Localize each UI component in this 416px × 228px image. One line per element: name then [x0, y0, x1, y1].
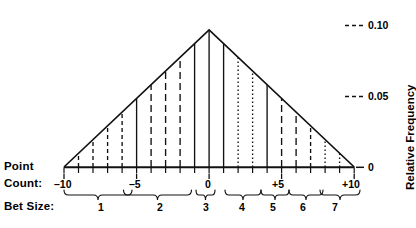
y-tick-label-005: 0.05: [368, 90, 388, 102]
x-tick-label-plus5: +5: [272, 178, 284, 190]
x-axis-title-line1: Point: [4, 160, 34, 172]
y-axis-title: Relative Frequency: [404, 85, 416, 190]
x-tick-label-plus10: +10: [342, 178, 360, 190]
brace-zone-1: [64, 190, 132, 200]
bet-size-title: Bet Size:: [4, 200, 54, 212]
bet-zone-label-6: 6: [300, 201, 306, 213]
bet-zone-label-7: 7: [332, 201, 338, 213]
x-axis-title-line2: Count:: [4, 177, 42, 189]
brace-zone-3: [196, 190, 215, 200]
chart-canvas: 0.10 0.05 0 Relative Frequency Point Cou…: [0, 0, 416, 228]
brace-zone-2: [124, 190, 192, 200]
x-tick-label-minus10: –10: [54, 178, 72, 190]
y-axis-ticks: [345, 26, 364, 168]
bet-zone-label-1: 1: [98, 201, 104, 213]
brace-zone-5: [261, 190, 289, 200]
brace-zone-7: [320, 190, 360, 200]
y-tick-label-000: 0: [368, 161, 374, 173]
bet-zone-label-2: 2: [157, 201, 163, 213]
triangular-distribution-plot: [0, 0, 416, 228]
x-axis-minor-ticks: [64, 167, 354, 173]
brace-zone-4: [225, 190, 261, 200]
bet-zone-label-4: 4: [239, 201, 245, 213]
x-tick-label-zero: 0: [205, 178, 211, 190]
y-tick-label-010: 0.10: [368, 19, 388, 31]
partition-lines: [79, 30, 340, 167]
x-tick-label-minus5: –5: [129, 178, 141, 190]
brace-zone-6: [289, 190, 323, 200]
bet-zone-label-3: 3: [203, 201, 209, 213]
bet-zone-label-5: 5: [270, 201, 276, 213]
bet-size-braces: [64, 190, 360, 200]
